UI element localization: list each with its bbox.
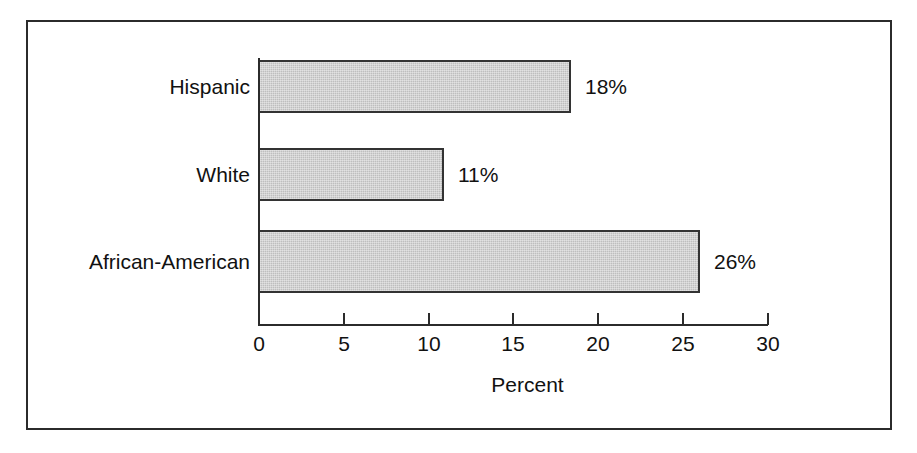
category-label-white: White — [196, 164, 250, 185]
x-tick-10 — [428, 313, 430, 325]
value-label-hispanic: 18% — [585, 76, 627, 97]
x-axis-title: Percent — [0, 374, 917, 395]
x-tick-label-0: 0 — [253, 333, 265, 354]
x-tick-30 — [767, 313, 769, 325]
category-label-african-american: African-American — [89, 251, 250, 272]
bar-white — [258, 148, 444, 201]
x-tick-label-15: 15 — [501, 333, 524, 354]
x-tick-20 — [597, 313, 599, 325]
chart-figure: Hispanic White African-American 18% 11% … — [0, 0, 917, 453]
bar-hispanic — [258, 60, 571, 113]
x-tick-15 — [512, 313, 514, 325]
value-label-white: 11% — [458, 164, 498, 185]
x-tick-label-30: 30 — [756, 333, 779, 354]
bar-african-american — [258, 230, 700, 293]
category-label-hispanic: Hispanic — [169, 76, 250, 97]
plot-area: Hispanic White African-American 18% 11% … — [0, 0, 917, 453]
y-axis-baseline — [258, 58, 260, 326]
x-tick-0 — [258, 313, 260, 325]
value-label-african-american: 26% — [714, 251, 756, 272]
x-tick-5 — [343, 313, 345, 325]
x-tick-label-10: 10 — [417, 333, 440, 354]
x-tick-25 — [682, 313, 684, 325]
x-tick-label-5: 5 — [338, 333, 350, 354]
x-tick-label-25: 25 — [671, 333, 694, 354]
x-axis-title-text: Percent — [491, 374, 563, 395]
x-tick-label-20: 20 — [586, 333, 609, 354]
